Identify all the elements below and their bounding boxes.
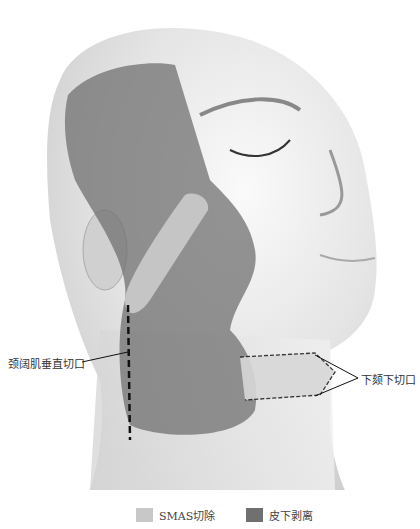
legend-label-smas: SMAS切除 <box>159 507 215 523</box>
submental-incision-outline <box>240 353 335 400</box>
legend-item-smas: SMAS切除 <box>136 507 215 523</box>
platysma-incision-label: 颈阔肌垂直切口 <box>8 355 85 371</box>
legend: SMAS切除 皮下剥离 <box>0 507 420 525</box>
submental-incision-label: 下颏下切口 <box>361 371 416 387</box>
smas-swatch <box>136 508 153 522</box>
legend-item-subcutaneous: 皮下剥离 <box>246 507 313 523</box>
face-neck-illustration: 颈阔肌垂直切口 下颏下切口 <box>0 0 420 490</box>
subcutaneous-swatch <box>246 508 263 522</box>
anatomy-drawing <box>0 0 420 490</box>
legend-label-subcutaneous: 皮下剥离 <box>269 507 313 523</box>
